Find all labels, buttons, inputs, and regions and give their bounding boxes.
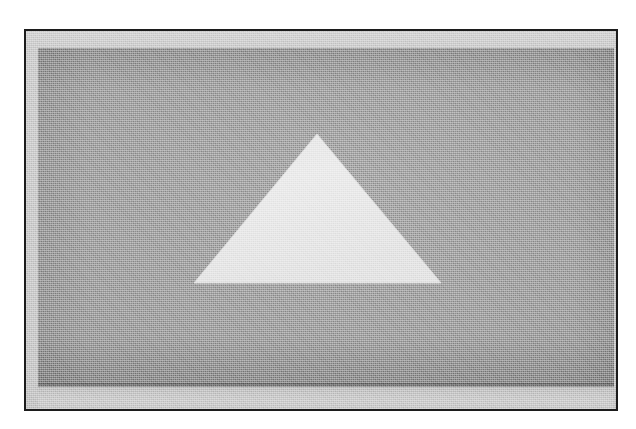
plate-drop-shadow xyxy=(38,383,614,387)
grey-background-plate xyxy=(38,48,614,383)
figure-canvas xyxy=(0,0,636,429)
plate-foot-band xyxy=(38,387,614,409)
triangle-polygon xyxy=(194,134,441,283)
plate-vignette xyxy=(38,48,614,383)
figure-frame-border xyxy=(24,29,618,411)
light-triangle xyxy=(38,48,614,383)
